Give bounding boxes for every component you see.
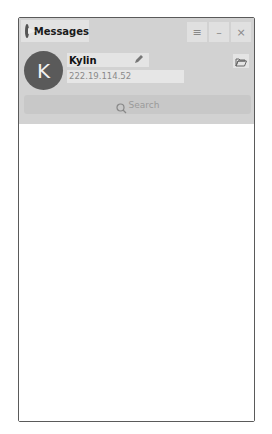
close-button[interactable]: × — [231, 22, 251, 42]
open-folder-button[interactable] — [233, 54, 249, 68]
avatar[interactable]: K — [24, 51, 63, 90]
close-icon: × — [236, 26, 245, 39]
messages-window: Messages ≡ – × K Kylin 222.19.114.52 — [18, 17, 255, 422]
minimize-icon: – — [216, 26, 222, 39]
username-field[interactable]: Kylin — [67, 53, 149, 67]
title-bar[interactable]: Messages ≡ – × — [19, 18, 254, 44]
pencil-icon[interactable] — [132, 54, 146, 66]
window-title: Messages — [34, 26, 89, 37]
search-placeholder: Search — [129, 100, 160, 110]
conversation-list[interactable] — [19, 124, 254, 421]
menu-button[interactable]: ≡ — [187, 22, 207, 42]
search-icon — [116, 99, 127, 110]
folder-open-icon — [235, 52, 247, 71]
minimize-button[interactable]: – — [209, 22, 229, 42]
avatar-letter: K — [37, 59, 50, 83]
username-text: Kylin — [69, 55, 132, 66]
ip-address: 222.19.114.52 — [67, 70, 184, 83]
menu-icon: ≡ — [192, 26, 201, 39]
title-area: Messages — [21, 20, 89, 42]
search-input[interactable]: Search — [24, 95, 251, 114]
messages-logo-icon — [25, 24, 29, 38]
header-panel: Messages ≡ – × K Kylin 222.19.114.52 — [19, 18, 254, 124]
